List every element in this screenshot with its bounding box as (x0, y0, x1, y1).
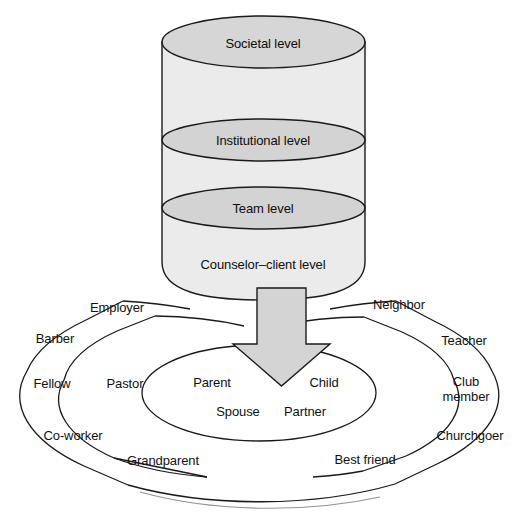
ring-label-co-worker: Co-worker (43, 429, 102, 443)
cylinder-label-societal: Societal level (225, 36, 300, 51)
ring-label-parent: Parent (193, 376, 231, 390)
downward-arrow-shape (233, 288, 330, 386)
club-member-line-2: member (442, 389, 489, 404)
ring-label-spouse: Spouse (216, 405, 260, 419)
ring-label-pastor: Pastor (107, 377, 144, 391)
ring-label-barber: Barber (36, 332, 74, 346)
ring-label-employer: Employer (90, 301, 144, 315)
ring-label-child: Child (309, 376, 338, 390)
diagram-canvas: Societal level Institutional level Team … (0, 0, 516, 518)
club-member-line-1: Club (453, 374, 479, 389)
ring-label-neighbor: Neighbor (373, 298, 425, 312)
cylinder-label-institutional: Institutional level (216, 133, 310, 148)
ring-label-partner: Partner (284, 405, 326, 419)
bottom-arc-artifact (140, 492, 380, 508)
ring-label-grandparent: Grandparent (127, 454, 199, 468)
ring-label-best-friend: Best friend (334, 453, 395, 467)
ring-label-churchgoer: Churchgoer (437, 429, 504, 443)
cylinder-label-counselor-client: Counselor–client level (201, 257, 326, 272)
cylinder-label-team: Team level (232, 201, 293, 216)
ring-label-fellow: Fellow (34, 377, 71, 391)
ring-label-club-member: Club member (434, 374, 498, 404)
ring-label-teacher: Teacher (441, 334, 487, 348)
